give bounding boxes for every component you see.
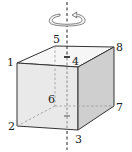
vertex-label-2: 2 — [8, 121, 15, 132]
vertex-label-4: 4 — [72, 56, 79, 67]
vertex-label-1: 1 — [7, 57, 14, 68]
vertex-label-7: 7 — [116, 102, 123, 113]
cube-figure — [0, 0, 132, 152]
vertex-label-5: 5 — [53, 34, 60, 45]
vertex-label-8: 8 — [116, 42, 123, 53]
cube-diagram: 1 2 3 4 5 6 7 8 — [0, 0, 132, 152]
vertex-label-3: 3 — [75, 134, 82, 145]
vertex-label-6: 6 — [48, 94, 55, 105]
